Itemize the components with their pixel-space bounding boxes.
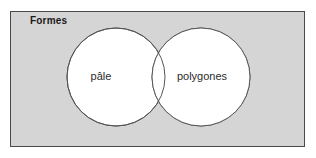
universe-label: Formes: [30, 15, 67, 26]
set-label-left: pâle: [91, 70, 112, 82]
set-label-right: polygones: [177, 70, 227, 82]
venn-diagram-canvas: Formes pâle polygones: [0, 0, 316, 158]
